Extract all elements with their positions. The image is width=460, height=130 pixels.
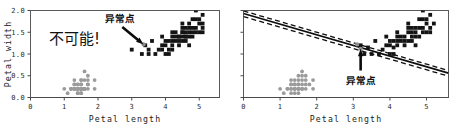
data-point [414, 35, 418, 39]
data-point [201, 30, 205, 34]
data-point [421, 30, 425, 34]
data-point [417, 35, 421, 39]
data-point [187, 26, 191, 30]
data-point [174, 30, 178, 34]
data-point [388, 43, 392, 47]
data-point [381, 48, 385, 52]
x-tick-label: 0 [241, 103, 246, 111]
data-point [167, 52, 171, 56]
data-point [300, 83, 304, 87]
data-point [170, 39, 174, 43]
left-outlier-label: 异常点 [105, 13, 135, 24]
data-point [359, 43, 363, 47]
data-point [395, 43, 399, 47]
y-tick-label: 0.0 [11, 94, 25, 102]
data-point [307, 83, 311, 87]
annotation-arrow [121, 26, 143, 44]
data-point [157, 48, 161, 52]
left-y-axis: 0.00.51.01.52.0 [11, 7, 30, 102]
x-tick-label: 5 [197, 103, 202, 111]
data-point [197, 22, 201, 26]
data-point [384, 43, 388, 47]
data-point [417, 26, 421, 30]
data-point [392, 52, 396, 56]
x-tick-label: 4 [163, 103, 168, 111]
data-point [180, 30, 184, 34]
data-point [191, 26, 195, 30]
data-point [177, 43, 181, 47]
figure-container: 0123450.00.51.01.52.0Petal lengthPetal w… [0, 0, 460, 130]
data-point [170, 48, 174, 52]
y-tick-label: 0.5 [11, 72, 25, 80]
x-tick-label: 5 [424, 103, 429, 111]
data-point [153, 52, 157, 56]
data-point [79, 87, 83, 91]
data-point [174, 35, 178, 39]
data-point [395, 35, 399, 39]
data-point [170, 35, 174, 39]
data-point [425, 17, 429, 21]
data-point [184, 30, 188, 34]
right-x-axis: 012345 [241, 98, 448, 112]
data-point [184, 26, 188, 30]
data-point [194, 9, 198, 13]
data-point [289, 78, 293, 82]
data-point [370, 52, 374, 56]
data-point [180, 39, 184, 43]
data-point [293, 91, 297, 95]
data-point [304, 78, 308, 82]
data-point [201, 26, 205, 30]
data-point [184, 39, 188, 43]
data-point [76, 91, 80, 95]
data-point [194, 30, 198, 34]
left-y-axis-title: Petal width [3, 21, 13, 87]
data-point [403, 43, 407, 47]
data-point [197, 30, 201, 34]
data-point [421, 9, 425, 13]
data-point [406, 39, 410, 43]
data-point [297, 74, 301, 78]
scatter-figure: 0123450.00.51.01.52.0Petal lengthPetal w… [0, 0, 460, 130]
data-point [164, 43, 168, 47]
y-tick-label: 1.5 [11, 29, 25, 37]
data-point [406, 26, 410, 30]
data-point [392, 39, 396, 43]
data-point [286, 87, 290, 91]
data-point [140, 52, 144, 56]
data-point [311, 78, 315, 82]
data-point [425, 30, 429, 34]
data-point [164, 52, 168, 56]
data-point [180, 35, 184, 39]
data-point [297, 83, 301, 87]
data-point [293, 78, 297, 82]
data-point [79, 78, 83, 82]
data-point [414, 43, 418, 47]
data-point [406, 22, 410, 26]
x-tick-label: 3 [129, 103, 134, 111]
data-point [388, 39, 392, 43]
right-outlier-label: 异常点 [346, 75, 376, 86]
left-outlier-annotation: 异常点 [105, 13, 143, 44]
data-point [66, 91, 70, 95]
data-point [194, 26, 198, 30]
left-series-versicolor-virginica [130, 9, 205, 56]
data-point [79, 91, 83, 95]
data-point [289, 83, 293, 87]
left-impossible-note: 不可能! [49, 30, 100, 48]
data-point [177, 39, 181, 43]
data-point [377, 52, 381, 56]
data-point [300, 74, 304, 78]
data-point [410, 26, 414, 30]
data-point [201, 22, 205, 26]
data-point [184, 35, 188, 39]
data-point [86, 78, 90, 82]
margin-line-lower [244, 17, 449, 77]
data-point [197, 17, 201, 21]
x-tick-label: 1 [278, 103, 283, 111]
data-point [180, 22, 184, 26]
data-point [160, 48, 164, 52]
data-point [373, 39, 377, 43]
y-tick-label: 2.0 [11, 7, 25, 15]
x-tick-label: 2 [314, 103, 319, 111]
data-point [384, 35, 388, 39]
